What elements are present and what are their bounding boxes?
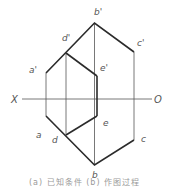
- label-a: a: [36, 130, 42, 140]
- axis-label-o: O: [154, 94, 162, 105]
- label-d-prime: d': [62, 33, 70, 43]
- label-a-prime: a': [29, 65, 37, 75]
- edge-d-prime-e-prime: [66, 53, 97, 76]
- axis-label-x: X: [10, 94, 19, 105]
- figure-caption: (a) 已知条件 (b) 作图过程: [0, 176, 169, 187]
- label-c-prime: c': [137, 38, 144, 48]
- front-view-outline: [46, 23, 134, 73]
- label-e-prime: e': [100, 63, 108, 73]
- label-e: e: [103, 118, 109, 128]
- edge-d-e: [66, 116, 97, 135]
- projection-diagram: X O b' d' c' a' e' a d e c b (a) 已知条件 (b…: [0, 0, 169, 188]
- label-d: d: [52, 135, 58, 145]
- label-c: c: [141, 134, 146, 144]
- top-view-outline: [46, 116, 134, 165]
- label-b-prime: b': [94, 7, 102, 17]
